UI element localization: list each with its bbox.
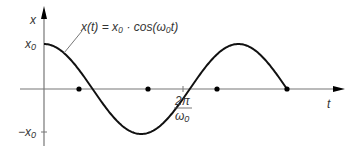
x-tick-den: ω0: [175, 109, 189, 124]
zero-crossing-point: [284, 86, 289, 91]
cosine-chart: x t x0 −x0 2π ω0 x(t) = x₀ · cos(ω₀t): [0, 0, 355, 146]
y-tick-x0: x0: [24, 37, 36, 52]
y-tick-neg-x0: −x0: [18, 125, 36, 140]
y-axis-label: x: [29, 13, 37, 27]
annotation-leader: [64, 31, 82, 53]
t-axis-arrow-icon: [333, 86, 345, 92]
t-axis-label: t: [327, 97, 331, 111]
zero-crossing-point: [214, 86, 219, 91]
zero-crossing-point: [76, 86, 81, 91]
x-tick-num: 2π: [174, 94, 191, 108]
zero-crossing-point: [145, 86, 150, 91]
chart-svg: x t x0 −x0 2π ω0 x(t) = x₀ · cos(ω₀t): [0, 0, 355, 146]
formula-annotation: x(t) = x₀ · cos(ω₀t): [80, 20, 178, 34]
x-axis-arrow-icon: [41, 6, 47, 19]
